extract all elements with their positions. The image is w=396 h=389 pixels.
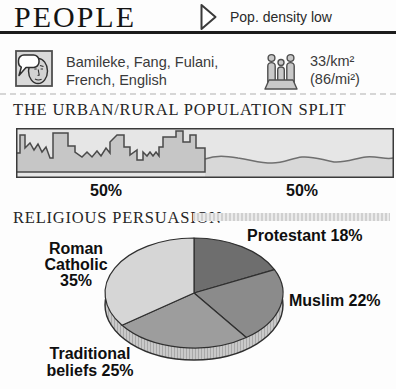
pie-label-protestant: Protestant 18% (247, 228, 363, 244)
urban-percent-label: 50% (76, 182, 136, 200)
density-tagline: Pop. density low (230, 9, 332, 25)
section-divider (0, 93, 396, 95)
header-rule (0, 31, 396, 34)
pie-label-roman-catholic: Roman Catholic 35% (18, 241, 134, 289)
pie-label-muslim: Muslim 22% (289, 293, 381, 309)
urban-rural-heading: THE URBAN/RURAL POPULATION SPLIT (13, 100, 346, 120)
languages-speech-face-icon (15, 50, 53, 87)
density-value: 33/km² (86/mi²) (310, 53, 360, 88)
people-infographic-panel: PEOPLE Pop. density low Bamileke, Fang, … (0, 0, 396, 389)
rural-percent-label: 50% (272, 182, 332, 200)
arrow-right-icon (199, 3, 218, 31)
page-title: PEOPLE (14, 0, 136, 34)
religion-heading: RELIGIOUS PERSUASION (13, 208, 222, 228)
languages-value: Bamileke, Fang, Fulani, French, English (66, 54, 218, 89)
urban-rural-strip-chart (16, 128, 394, 178)
rural-hills-fill (205, 156, 393, 177)
pie-label-traditional-beliefs: Traditional beliefs 25% (26, 346, 154, 379)
religion-heading-texture-bar (193, 213, 390, 221)
population-density-people-icon (262, 51, 300, 91)
